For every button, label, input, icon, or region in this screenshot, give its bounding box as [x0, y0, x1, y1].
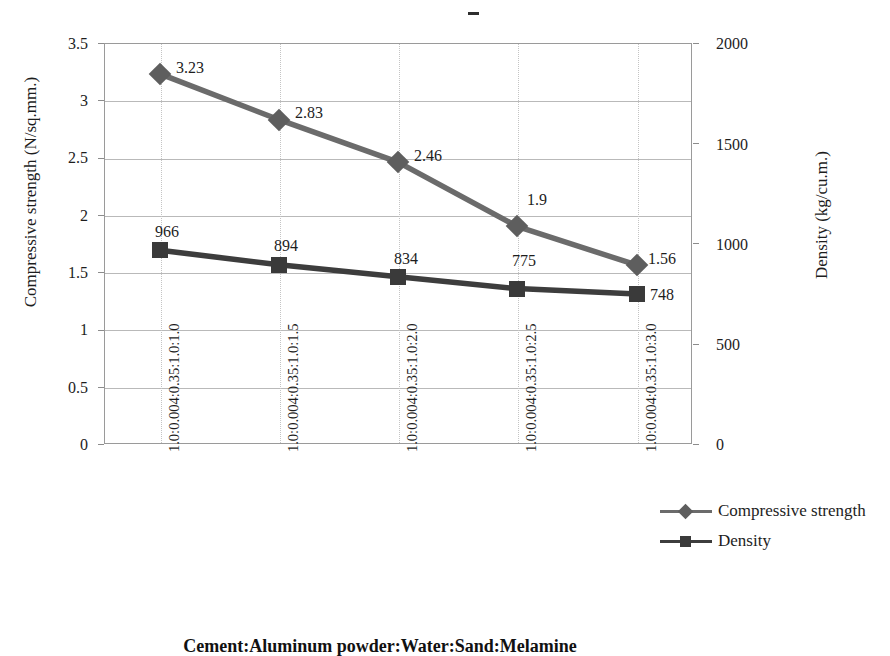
gridline-horizontal	[105, 101, 691, 102]
legend-label: Compressive strength	[718, 501, 866, 521]
gridline-vertical	[518, 44, 519, 443]
legend: Compressive strength Density	[660, 496, 866, 556]
data-label-density: 894	[274, 238, 298, 254]
data-label-compressive-strength: 2.83	[295, 105, 323, 121]
right-axis-title: Density (kg/cu.m.)	[812, 65, 832, 365]
gridline-vertical	[638, 44, 639, 443]
gridline-vertical	[161, 44, 162, 443]
left-tick-mark	[98, 330, 104, 331]
data-label-compressive-strength: 1.56	[648, 251, 676, 267]
left-tick-mark	[98, 444, 104, 445]
top-stray-mark	[468, 12, 479, 15]
diamond-marker-icon	[678, 504, 694, 520]
right-axis-tick: 1000	[716, 237, 748, 253]
x-axis-title: Cement:Aluminum powder:Water:Sand:Melami…	[0, 636, 760, 656]
left-tick-mark	[98, 387, 104, 388]
x-axis-category-label: 1.0:0.004:0.35:1.0:2.5	[524, 262, 539, 452]
x-axis-category-label: 1.0:0.004:0.35:1.0:1.0	[167, 262, 182, 452]
data-label-density: 748	[650, 287, 674, 303]
left-tick-mark	[98, 100, 104, 101]
left-axis-tick: 3.5	[68, 36, 88, 52]
left-axis-tick: 2	[80, 208, 88, 224]
left-tick-mark	[98, 43, 104, 44]
left-axis-tick: 0.5	[68, 380, 88, 396]
gridline-horizontal	[105, 159, 691, 160]
right-tick-mark	[693, 444, 699, 445]
legend-item-compressive-strength[interactable]: Compressive strength	[660, 496, 866, 526]
left-axis-tick: 3	[80, 93, 88, 109]
chart-container: 3.5 3 2.5 2 1.5 1 0.5 0 2000 1500 1000 5…	[0, 0, 890, 656]
gridline-horizontal	[105, 388, 691, 389]
legend-label: Density	[718, 531, 771, 551]
x-axis-category-label: 1.0:0.004:0.35:1.0:1.5	[286, 262, 301, 452]
right-tick-mark	[693, 344, 699, 345]
x-axis-category-label: 1.0:0.004:0.35:1.0:2.0	[405, 262, 420, 452]
left-axis-tick: 1	[80, 322, 88, 338]
data-label-compressive-strength: 3.23	[176, 60, 204, 76]
right-tick-mark	[693, 43, 699, 44]
data-label-density: 775	[512, 253, 536, 269]
data-label-density: 966	[155, 224, 179, 240]
right-axis-tick: 2000	[716, 36, 748, 52]
gridline-vertical	[399, 44, 400, 443]
right-tick-mark	[693, 243, 699, 244]
left-axis-tick: 1.5	[68, 265, 88, 281]
left-axis-title: Compressive strength (N/sq.mm.)	[21, 27, 41, 357]
gridline-horizontal	[105, 330, 691, 331]
gridline-horizontal	[105, 216, 691, 217]
data-label-compressive-strength: 2.46	[414, 148, 442, 164]
legend-key-density	[660, 533, 712, 549]
data-label-density: 834	[394, 251, 418, 267]
square-marker-icon	[680, 536, 691, 547]
gridline-horizontal	[105, 273, 691, 274]
legend-item-density[interactable]: Density	[660, 526, 866, 556]
left-axis-tick: 2.5	[68, 150, 88, 166]
left-tick-mark	[98, 158, 104, 159]
legend-key-compressive-strength	[660, 503, 712, 519]
right-axis-tick: 1500	[716, 137, 748, 153]
left-tick-mark	[98, 215, 104, 216]
right-axis-tick: 500	[716, 337, 740, 353]
data-label-compressive-strength: 1.9	[527, 192, 547, 208]
plot-area	[104, 43, 692, 444]
left-axis-tick: 0	[80, 437, 88, 453]
right-axis-tick: 0	[716, 437, 724, 453]
left-tick-mark	[98, 272, 104, 273]
right-tick-mark	[693, 143, 699, 144]
